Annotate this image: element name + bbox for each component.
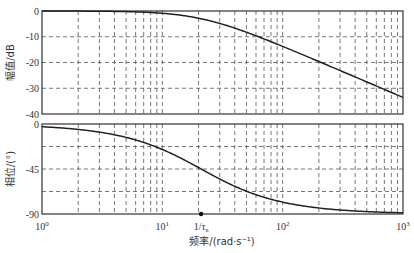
- corner-frequency-label: 1/τn: [194, 221, 209, 233]
- x-tick-label: 102: [276, 220, 290, 232]
- x-tick-label: 101: [156, 220, 170, 232]
- y-axis-label: 幅值/dB: [4, 44, 16, 81]
- x-axis-label: 频率/(rad·s⁻¹): [189, 235, 255, 247]
- plot-frame: [42, 11, 403, 114]
- magnitude-curve: [42, 11, 403, 97]
- x-axis: 1001011021031/τn频率/(rad·s⁻¹): [35, 212, 410, 247]
- y-axis-label: 相位/(°): [4, 151, 16, 187]
- magnitude-panel: 0-10-20-30-40幅值/dB: [4, 6, 403, 120]
- plot-frame: [42, 124, 403, 214]
- x-tick-label: 103: [396, 220, 410, 232]
- y-tick-label: -45: [26, 164, 39, 175]
- corner-frequency-marker: [199, 212, 203, 216]
- x-tick-label: 100: [35, 220, 49, 232]
- phase-panel: 0-45-90相位/(°): [4, 119, 403, 220]
- bode-plot: 0-10-20-30-40幅值/dB0-45-90相位/(°)100101102…: [0, 0, 414, 253]
- y-tick-label: 0: [34, 6, 39, 17]
- y-tick-label: -10: [26, 31, 39, 42]
- y-tick-label: 0: [34, 119, 39, 130]
- y-tick-label: -90: [26, 209, 39, 220]
- y-tick-label: -20: [26, 57, 39, 68]
- phase-curve: [42, 127, 403, 213]
- y-tick-label: -30: [26, 83, 39, 94]
